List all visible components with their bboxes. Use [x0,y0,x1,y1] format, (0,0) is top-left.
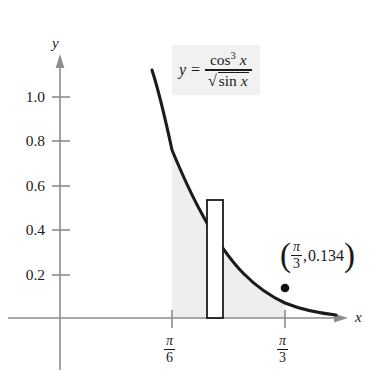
y-tick-label-0.4: 0.4 [9,222,45,238]
fraction-numerator: π [277,334,288,348]
y-tick-label-0.6: 0.6 [9,178,45,194]
fraction-numerator: π [164,334,175,348]
annotation-close-paren: ) [344,242,355,269]
annotation-open-paren: ( [280,242,291,269]
y-tick-label-0.8: 0.8 [9,133,45,149]
inscribed-rectangle [207,200,223,318]
point-annotation: ( π 3 , 0.134 ) [280,240,355,272]
equation-radicand: sin x [218,72,249,89]
equation-cos: cos [210,51,231,68]
y-axis-arrowhead [56,54,65,68]
y-tick-label-0.2: 0.2 [9,267,45,283]
y-axis-label: y [52,36,59,51]
equation-label: y = cos3 x √sin x [172,45,260,95]
equation-fraction: cos3 x √sin x [205,50,252,90]
fraction-denominator: 3 [277,351,288,365]
radical-icon: √ [208,72,217,89]
y-tick-label-1.0: 1.0 [9,89,45,105]
fraction-pi-over-3: π 3 [277,334,288,366]
annotation-fraction: π 3 [291,240,302,272]
marked-point-dot [281,284,290,293]
equation-numerator-variable: x [240,51,247,68]
equation-denominator: √sin x [205,71,252,90]
x-tick-label-pi-over-6: π 6 [164,334,175,366]
x-axis-label: x [355,310,362,325]
annotation-y-value: 0.134 [307,247,344,265]
x-tick-label-pi-over-3: π 3 [277,334,288,366]
equation-numerator: cos3 x [205,50,252,69]
fraction-denominator: 6 [164,351,175,365]
figure-canvas: y x 1.0 0.8 0.6 0.4 0.2 π 6 π 3 y = cos3… [0,0,388,383]
equation-sin: sin [219,72,237,89]
fraction-numerator: π [291,240,302,254]
equation-lead: y = [179,61,201,79]
equation-exponent: 3 [231,50,236,61]
equation-denominator-variable: x [241,72,248,89]
fraction-denominator: 3 [291,257,302,271]
fraction-pi-over-6: π 6 [164,334,175,366]
